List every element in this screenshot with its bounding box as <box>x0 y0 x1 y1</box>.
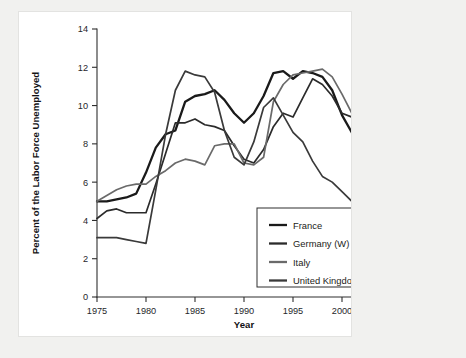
x-axis-title: Year <box>234 319 255 330</box>
series-line-italy <box>97 69 351 201</box>
y-tick-label: 8 <box>83 139 88 149</box>
y-tick-group: 02468101214 <box>78 24 97 302</box>
legend-label: Germany (W) <box>293 238 349 249</box>
unemployment-line-chart: 02468101214 1975198019851990199520002005… <box>19 12 351 336</box>
y-tick-label: 14 <box>78 24 88 34</box>
x-tick-label: 2000 <box>332 306 351 316</box>
legend-label: France <box>293 220 322 231</box>
legend-label: Italy <box>293 257 311 268</box>
x-tick-label: 1975 <box>87 306 107 316</box>
x-tick-label: 1990 <box>234 306 254 316</box>
x-tick-group: 1975198019851990199520002005 <box>87 297 351 316</box>
x-tick-label: 1980 <box>136 306 156 316</box>
x-tick-label: 1985 <box>185 306 205 316</box>
chart-legend: FranceGermany (W)ItalyUnited Kingdom <box>257 208 351 287</box>
x-tick-label: 1995 <box>283 306 303 316</box>
y-tick-label: 6 <box>83 178 88 188</box>
series-line-france <box>97 71 351 201</box>
legend-label: United Kingdom <box>293 275 351 286</box>
y-axis-title: Percent of the Labor Force Unemployed <box>30 72 41 254</box>
y-tick-label: 0 <box>83 292 88 302</box>
y-tick-label: 10 <box>78 101 88 111</box>
figure-card: 02468101214 1975198019851990199520002005… <box>18 11 352 337</box>
y-tick-label: 2 <box>83 254 88 264</box>
y-tick-label: 12 <box>78 63 88 73</box>
y-tick-label: 4 <box>83 216 88 226</box>
page-background: 02468101214 1975198019851990199520002005… <box>0 0 466 358</box>
